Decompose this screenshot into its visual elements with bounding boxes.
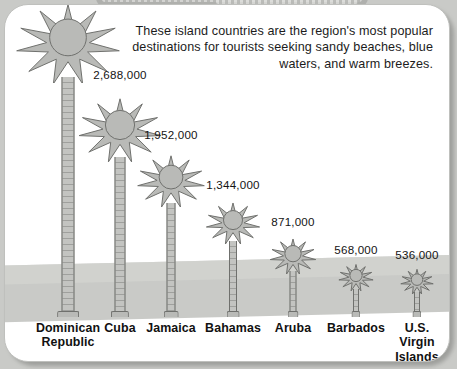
palm-base-5 — [351, 311, 360, 317]
infographic-stage: These island countries are the region's … — [0, 0, 457, 369]
category-label-line: Islands — [395, 350, 438, 362]
palm-trunk-0 — [62, 77, 75, 315]
palm-crown-icon-3 — [205, 196, 261, 244]
category-label-4: Aruba — [275, 321, 311, 335]
category-label-line: U.S. — [395, 321, 438, 335]
palm-base-4 — [288, 311, 299, 317]
category-label-6: U.S.VirginIslands — [395, 321, 438, 362]
palm-base-1 — [111, 311, 129, 317]
palm-base-3 — [227, 311, 240, 317]
value-label-6: 536,000 — [395, 248, 438, 261]
value-label-5: 568,000 — [334, 243, 377, 256]
category-label-line: Cuba — [104, 321, 135, 335]
palm-trunk-1 — [115, 157, 126, 315]
value-label-3: 1,344,000 — [206, 178, 259, 191]
category-label-3: Bahamas — [205, 321, 261, 335]
palm-crown-icon-6 — [400, 265, 434, 294]
value-label-4: 871,000 — [271, 215, 314, 228]
category-label-line: Bahamas — [205, 321, 261, 335]
category-label-line: Jamaica — [146, 321, 196, 335]
category-label-2: Jamaica — [146, 321, 196, 335]
palm-crown-icon-4 — [269, 233, 317, 274]
category-label-line: Republic — [36, 335, 100, 349]
palm-trunk-2 — [167, 203, 176, 315]
palm-crown-icon-5 — [338, 260, 374, 291]
category-label-line: Dominican — [36, 321, 100, 335]
category-label-line: Virgin — [395, 335, 438, 349]
caption-text: These island countries are the region's … — [117, 23, 433, 72]
chart-panel: These island countries are the region's … — [4, 4, 450, 362]
palm-base-6 — [412, 311, 421, 317]
palm-base-0 — [57, 311, 79, 317]
category-label-line: Barbados — [327, 321, 385, 335]
palm-crown-icon-2 — [136, 147, 206, 207]
palm-trunk-4 — [290, 271, 297, 315]
value-label-1: 2,688,000 — [93, 68, 146, 81]
category-label-0: DominicanRepublic — [36, 321, 100, 350]
category-label-line: Aruba — [275, 321, 311, 335]
palm-trunk-3 — [229, 241, 237, 315]
category-label-1: Cuba — [104, 321, 135, 335]
category-label-5: Barbados — [327, 321, 385, 335]
value-label-2: 1,952,000 — [144, 128, 197, 141]
palm-base-2 — [164, 311, 179, 317]
